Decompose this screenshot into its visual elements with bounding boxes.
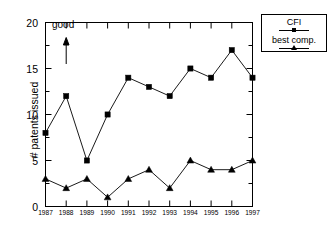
plot-area-container: # patents issued 20 15 10 5 0 1987 1988 … [0, 0, 335, 231]
triangle-marker [42, 176, 49, 182]
good-annotation-label: good [52, 20, 74, 30]
y-tick-label-15: 15 [12, 64, 38, 75]
legend-label-best-comp: best comp. [262, 36, 326, 45]
square-marker [167, 94, 172, 99]
triangle-marker [84, 176, 91, 182]
square-marker [43, 130, 48, 135]
legend-label-cfi: CFI [262, 18, 326, 27]
triangle-marker [187, 157, 194, 163]
square-marker [84, 158, 89, 163]
square-marker [209, 75, 214, 80]
legend-sample-best-comp [262, 45, 326, 52]
square-marker-icon [292, 28, 296, 32]
axis-frame [46, 23, 253, 207]
y-tick-label-10: 10 [12, 110, 38, 121]
legend-entry-cfi: CFI [262, 18, 326, 34]
square-marker [188, 66, 193, 71]
series-best-comp [42, 157, 256, 200]
x-tick-label-1997: 1997 [236, 209, 270, 216]
y-tick-label-20: 20 [12, 18, 38, 29]
square-marker [250, 75, 255, 80]
triangle-marker [125, 176, 132, 182]
x-axis-top-ticks [46, 23, 253, 29]
good-arrow-icon [63, 38, 69, 65]
triangle-marker [63, 185, 70, 191]
square-marker [229, 48, 234, 53]
series-layer [42, 48, 256, 200]
x-axis-ticks [46, 201, 253, 207]
square-marker [146, 84, 151, 89]
triangle-marker [146, 166, 153, 172]
chart-figure: # patents issued 20 15 10 5 0 1987 1988 … [0, 0, 335, 231]
y-axis-right-ticks [247, 23, 253, 207]
chart-legend: CFI best comp. [261, 14, 327, 52]
legend-sample-cfi [262, 27, 326, 34]
series-line [46, 50, 253, 160]
legend-entry-best-comp: best comp. [262, 36, 326, 52]
triangle-marker-icon [291, 45, 297, 50]
square-marker [126, 75, 131, 80]
square-marker [105, 112, 110, 117]
series-cfi [43, 48, 255, 164]
y-tick-label-5: 5 [12, 156, 38, 167]
square-marker [64, 94, 69, 99]
